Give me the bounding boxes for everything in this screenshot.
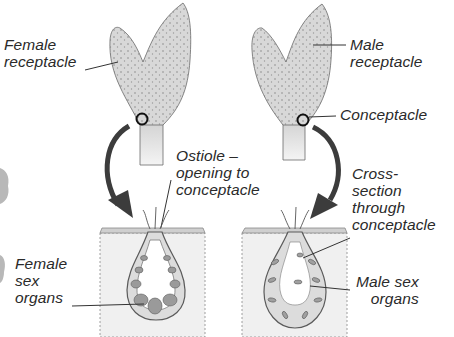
- label-conceptacle: Conceptacle: [340, 106, 427, 123]
- edge-fragment: [0, 168, 9, 283]
- label-ostiole: Ostiole – opening to conceptacle: [176, 147, 260, 198]
- male-receptacle: [252, 4, 346, 160]
- label-male-sex-organs: Male sex organs: [356, 273, 419, 307]
- arrow-icon: [310, 127, 338, 219]
- arrow-icon: [107, 126, 133, 218]
- male-conceptacle-cross-section: [242, 207, 350, 337]
- label-female-receptacle: Female receptacle: [4, 36, 77, 70]
- label-male-receptacle: Male receptacle: [350, 36, 423, 70]
- label-female-sex-organs: Female sex organs: [15, 255, 67, 306]
- female-conceptacle-cross-section: [72, 207, 205, 337]
- label-cross-section: Cross- section through conceptacle: [352, 165, 436, 233]
- female-receptacle: [85, 3, 191, 165]
